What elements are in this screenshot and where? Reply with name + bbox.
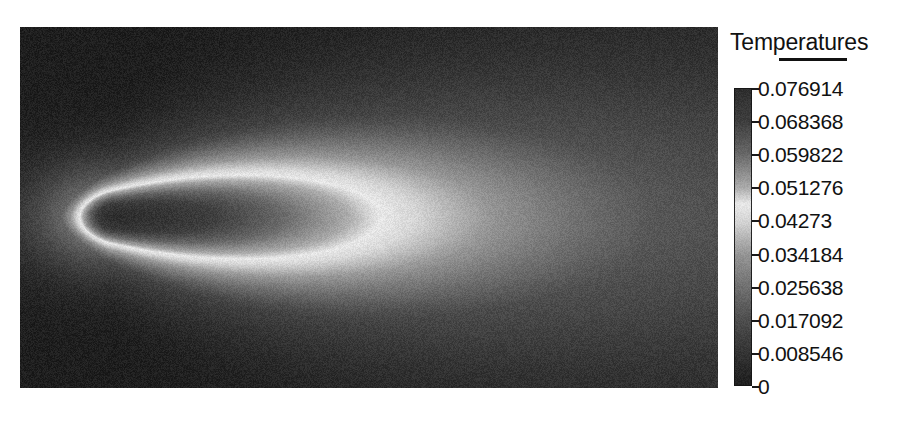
legend-title: Temperatures bbox=[730, 29, 912, 55]
colorbar-gradient bbox=[734, 88, 752, 386]
colorbar-tick-label: 0.025638 bbox=[758, 277, 908, 298]
contour-plot-panel bbox=[20, 27, 718, 388]
colorbar-tick-label: 0.068368 bbox=[758, 111, 908, 132]
colorbar-legend: Temperatures 0.0769140.0683680.0598220.0… bbox=[722, 27, 912, 392]
temperature-contour-figure: Temperatures 0.0769140.0683680.0598220.0… bbox=[0, 0, 912, 424]
colorbar-tick-label: 0 bbox=[758, 376, 908, 397]
colorbar-tick-label: 0.04273 bbox=[758, 210, 908, 231]
colorbar-tick-label: 0.008546 bbox=[758, 343, 908, 364]
colorbar-tick-label: 0.059822 bbox=[758, 144, 908, 165]
colorbar-tick-label: 0.051276 bbox=[758, 177, 908, 198]
temperature-field-image bbox=[20, 27, 718, 388]
colorbar-tick-label: 0.076914 bbox=[758, 78, 908, 99]
colorbar bbox=[734, 88, 752, 386]
colorbar-tick-label: 0.017092 bbox=[758, 310, 908, 331]
colorbar-tick-label: 0.034184 bbox=[758, 244, 908, 265]
legend-title-underline bbox=[779, 58, 847, 61]
colorbar-tick-labels: 0.0769140.0683680.0598220.0512760.042730… bbox=[758, 77, 912, 397]
